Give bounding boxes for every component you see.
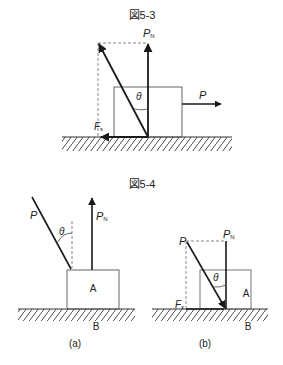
ground-surface-a xyxy=(18,309,135,321)
p-label-a: P xyxy=(30,209,38,221)
pn-label-a: PN xyxy=(96,210,108,222)
figure-5-3-title: 図5-3 xyxy=(129,9,156,21)
panel-caption-b: (b) xyxy=(199,338,211,349)
theta-label-a: θ xyxy=(59,226,65,237)
figure-5-3: 図5-3 PN θ P Fs xyxy=(62,9,232,151)
figure-5-4-title: 図5-4 xyxy=(129,178,156,190)
applied-force-arrow-b xyxy=(187,242,225,308)
ground-label-a: B xyxy=(93,321,100,332)
fs-label: Fs xyxy=(94,121,103,132)
p-label: P xyxy=(199,89,207,101)
pn-label: PN xyxy=(143,27,155,39)
p-label-b: P xyxy=(179,235,187,247)
diagram-canvas: 図5-3 PN θ P Fs 図5-4 xyxy=(0,0,283,365)
block-label-a: A xyxy=(90,283,97,294)
pn-label-b: PN xyxy=(223,228,235,240)
ground-surface xyxy=(62,137,232,151)
ground-label-b: B xyxy=(245,321,252,332)
applied-force-line-a xyxy=(32,197,71,269)
ground-surface-b xyxy=(152,309,268,321)
block-label-b: A xyxy=(243,288,250,299)
figure-5-4-panel-b: P PN θ Fs A B (b) xyxy=(152,228,268,349)
theta-arc-b xyxy=(214,285,226,287)
figure-5-4-panel-a: P θ PN A B (a) xyxy=(18,197,135,349)
theta-label: θ xyxy=(136,91,142,102)
theta-label-b: θ xyxy=(213,272,219,283)
fs-label-b: Fs xyxy=(175,299,184,310)
panel-caption-a: (a) xyxy=(69,338,81,349)
theta-arc xyxy=(134,109,148,110)
